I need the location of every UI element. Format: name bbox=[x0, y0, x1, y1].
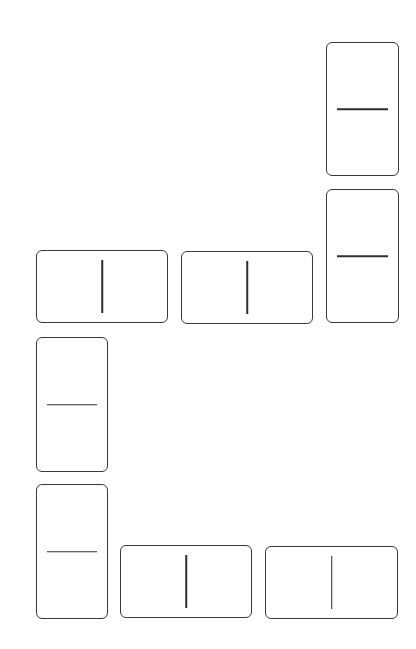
domino-half-first: 0 bbox=[327, 190, 398, 256]
domino-half-first: 0 bbox=[37, 338, 107, 405]
domino-half-second: 0 bbox=[327, 109, 398, 175]
domino-half-first: 0 bbox=[37, 251, 102, 322]
domino-tile-horizontal[interactable]: 00 bbox=[265, 546, 398, 619]
domino-half-first: 0 bbox=[266, 547, 332, 618]
domino-divider-line bbox=[331, 556, 333, 609]
domino-divider-line bbox=[47, 551, 97, 553]
domino-tile-vertical[interactable]: 00 bbox=[36, 337, 108, 472]
domino-tile-vertical[interactable]: 00 bbox=[36, 484, 108, 619]
domino-half-second: 0 bbox=[247, 252, 312, 323]
domino-tile-horizontal[interactable]: 00 bbox=[36, 250, 168, 323]
domino-divider-line bbox=[246, 261, 248, 314]
domino-divider-line bbox=[101, 260, 103, 313]
domino-half-second: 0 bbox=[37, 405, 107, 472]
domino-divider-line bbox=[185, 555, 187, 608]
domino-board: 0000000000000000 bbox=[0, 0, 416, 649]
domino-half-first: 0 bbox=[327, 43, 398, 109]
domino-half-first: 0 bbox=[121, 546, 186, 617]
domino-half-first: 0 bbox=[37, 485, 107, 552]
domino-half-second: 0 bbox=[332, 547, 398, 618]
domino-tile-vertical[interactable]: 00 bbox=[326, 189, 399, 323]
domino-tile-vertical[interactable]: 00 bbox=[326, 42, 399, 176]
domino-half-second: 0 bbox=[327, 256, 398, 322]
domino-tile-horizontal[interactable]: 00 bbox=[120, 545, 252, 618]
domino-divider-line bbox=[47, 404, 97, 406]
domino-half-first: 0 bbox=[182, 252, 247, 323]
domino-half-second: 0 bbox=[37, 552, 107, 619]
domino-half-second: 0 bbox=[102, 251, 167, 322]
domino-divider-line bbox=[337, 108, 388, 110]
domino-half-second: 0 bbox=[186, 546, 251, 617]
domino-tile-horizontal[interactable]: 00 bbox=[181, 251, 313, 324]
domino-divider-line bbox=[337, 255, 388, 257]
